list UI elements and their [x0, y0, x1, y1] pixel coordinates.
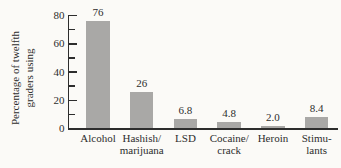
x-category-label: Stimu- lants: [283, 133, 341, 156]
bar-value-label: 76: [78, 6, 118, 19]
y-major-tick: [69, 128, 77, 130]
bar-value-label: 2.0: [253, 111, 293, 124]
y-axis-title: Percentage of twelfth graders using: [8, 13, 38, 143]
bar-value-label: 4.8: [209, 107, 249, 120]
bar: [86, 21, 110, 128]
y-minor-tick: [69, 29, 75, 31]
bar-chart-figure: Percentage of twelfth graders using 0204…: [0, 0, 341, 168]
y-major-tick: [69, 71, 77, 73]
y-major-tick: [69, 100, 77, 102]
bar: [305, 117, 329, 129]
y-minor-tick: [69, 85, 75, 87]
bar: [130, 92, 154, 129]
y-minor-tick: [69, 57, 75, 59]
bar-value-label: 6.8: [165, 104, 205, 117]
bar-value-label: 26: [122, 77, 162, 90]
y-tick-label: 60: [35, 37, 65, 50]
y-tick-label: 20: [35, 94, 65, 107]
bar: [217, 122, 241, 129]
y-tick-label: 80: [35, 9, 65, 22]
y-tick-label: 0: [35, 122, 65, 135]
y-tick-label: 40: [35, 66, 65, 79]
bar: [174, 119, 198, 129]
y-major-tick: [69, 43, 77, 45]
bar: [261, 126, 285, 129]
bar-value-label: 8.4: [297, 102, 337, 115]
y-major-tick: [69, 15, 77, 17]
y-minor-tick: [69, 114, 75, 116]
